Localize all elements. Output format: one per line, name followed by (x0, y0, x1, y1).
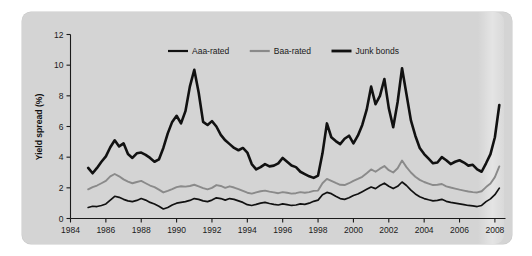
x-tick-label: 1996 (273, 225, 292, 235)
y-tick-label: 8 (59, 91, 64, 101)
y-tick-label: 10 (54, 60, 64, 70)
y-tick-label: 0 (59, 214, 64, 224)
chart-legend: Aaa-ratedBaa-ratedJunk bonds (168, 46, 399, 56)
legend-label: Baa-rated (274, 46, 312, 56)
chart-series-group (88, 68, 499, 209)
y-tick-label: 12 (54, 30, 64, 40)
legend-label: Aaa-rated (192, 46, 230, 56)
x-tick-label: 2008 (485, 225, 504, 235)
x-tick-label: 1992 (203, 225, 222, 235)
x-tick-label: 1986 (96, 225, 115, 235)
x-axis-ticks: 1984198619881990199219941996199820002002… (61, 219, 505, 235)
y-axis-title: Yield spread (%) (34, 94, 44, 161)
y-tick-label: 6 (59, 122, 64, 132)
y-axis-ticks: 024681012 (54, 30, 70, 224)
x-tick-label: 2004 (415, 225, 434, 235)
x-tick-label: 1998 (309, 225, 328, 235)
x-tick-label: 1984 (61, 225, 80, 235)
x-tick-label: 2006 (450, 225, 469, 235)
x-tick-label: 1994 (238, 225, 257, 235)
y-tick-label: 4 (59, 152, 64, 162)
x-tick-label: 2000 (344, 225, 363, 235)
x-tick-label: 2002 (379, 225, 398, 235)
chart-axes (71, 35, 506, 219)
y-tick-label: 2 (59, 183, 64, 193)
series-line-junk-bonds (88, 68, 499, 178)
x-tick-label: 1990 (167, 225, 186, 235)
figure-root: Aaa-ratedBaa-ratedJunk bonds 024681012 1… (0, 0, 532, 256)
plot-stage: Aaa-ratedBaa-ratedJunk bonds 024681012 1… (0, 0, 532, 256)
yield-spread-line-chart: Aaa-ratedBaa-ratedJunk bonds 024681012 1… (0, 0, 532, 256)
x-tick-label: 1988 (132, 225, 151, 235)
legend-label: Junk bonds (356, 46, 399, 56)
